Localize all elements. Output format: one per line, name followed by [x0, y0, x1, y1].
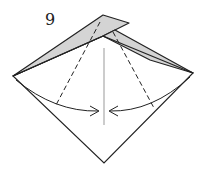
origami-fold-diagram [0, 0, 207, 176]
paper-square [13, 36, 193, 163]
